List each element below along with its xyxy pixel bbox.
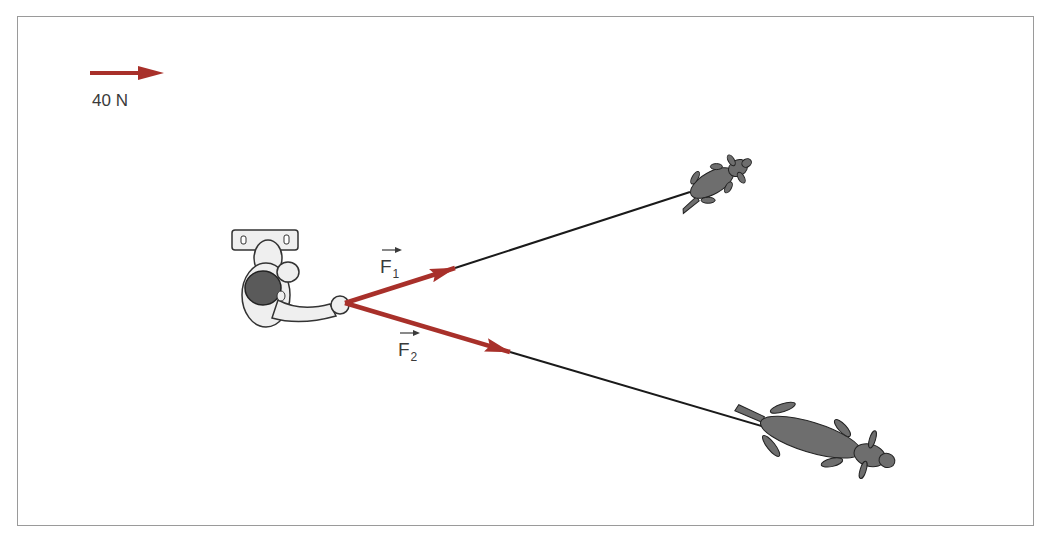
force-vector-f2	[345, 303, 510, 352]
scale-arrow	[90, 66, 164, 80]
vector-arrow-icon	[382, 246, 402, 254]
f2-symbol: F	[398, 339, 410, 360]
f2-subscript: 2	[411, 350, 418, 364]
scale-label: 40 N	[92, 91, 128, 111]
person-icon	[232, 230, 349, 327]
force-vector-f1	[345, 268, 455, 303]
vector-arrow-icon	[400, 329, 420, 337]
leash-upper	[455, 192, 690, 268]
dog-upper-icon	[668, 144, 761, 220]
dog-lower-icon	[725, 384, 904, 492]
force-diagram-canvas	[0, 0, 1046, 538]
f2-label: F2	[398, 339, 416, 361]
f1-symbol: F	[380, 256, 392, 277]
f1-label: F1	[380, 256, 398, 278]
f1-subscript: 1	[393, 267, 400, 281]
